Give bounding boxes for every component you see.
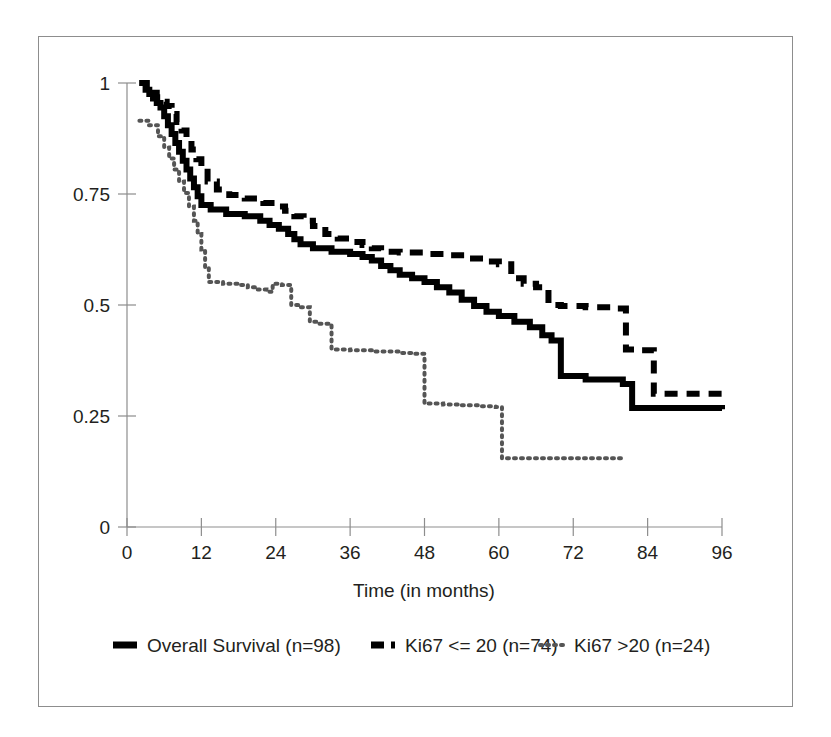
survival-curve-solid [139, 83, 722, 409]
legend-label: Overall Survival (n=98) [147, 635, 341, 656]
y-tick-label: 0.5 [84, 295, 110, 316]
x-tick-label: 36 [340, 542, 361, 563]
x-tick-label: 12 [191, 542, 212, 563]
legend-item[interactable]: Ki67 <= 20 (n=74) [371, 635, 558, 656]
x-axis-ticks: 01224364860728496 [122, 518, 733, 563]
x-tick-label: 96 [711, 542, 732, 563]
x-tick-label: 24 [265, 542, 287, 563]
legend-item[interactable]: Overall Survival (n=98) [113, 635, 341, 656]
y-tick-label: 0.25 [73, 406, 110, 427]
legend-label: Ki67 <= 20 (n=74) [405, 635, 558, 656]
x-tick-label: 48 [414, 542, 435, 563]
survival-curve-dotted [139, 121, 622, 458]
kaplan-meier-chart: 00.250.50.751 01224364860728496 Time (in… [0, 0, 831, 737]
x-tick-label: 84 [637, 542, 659, 563]
axes [127, 83, 722, 527]
x-tick-label: 0 [122, 542, 133, 563]
y-tick-label: 1 [99, 73, 110, 94]
legend-item[interactable]: Ki67 >20 (n=24) [540, 635, 710, 656]
chart-legend: Overall Survival (n=98)Ki67 <= 20 (n=74)… [113, 635, 710, 656]
legend-label: Ki67 >20 (n=24) [574, 635, 710, 656]
y-tick-label: 0.75 [73, 184, 110, 205]
figure-root: 00.250.50.751 01224364860728496 Time (in… [0, 0, 831, 737]
x-tick-label: 72 [563, 542, 584, 563]
x-tick-label: 60 [488, 542, 509, 563]
survival-curves [139, 83, 722, 458]
y-tick-label: 0 [99, 517, 110, 538]
x-axis-title: Time (in months) [353, 580, 495, 601]
survival-curve-dashed [139, 83, 722, 395]
